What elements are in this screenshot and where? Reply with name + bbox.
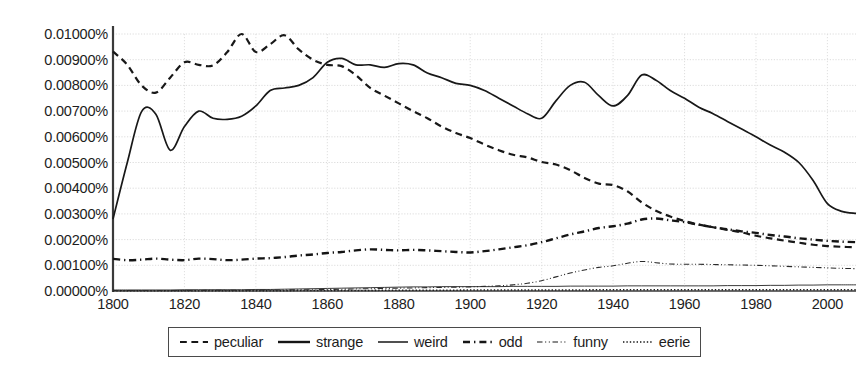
legend-line-swatch-strange xyxy=(277,337,311,347)
legend-item-peculiar[interactable]: peculiar xyxy=(172,334,270,350)
plot-area xyxy=(0,0,867,374)
series-line-strange xyxy=(113,58,856,219)
legend-line-swatch-eerie xyxy=(622,337,654,347)
series-line-odd xyxy=(113,219,856,261)
legend-line-swatch-odd xyxy=(462,337,494,347)
legend-label: weird xyxy=(414,334,448,350)
legend-line-swatch-weird xyxy=(377,337,409,347)
legend-item-odd[interactable]: odd xyxy=(455,334,530,350)
legend-label: eerie xyxy=(659,334,690,350)
legend-label: peculiar xyxy=(214,334,263,350)
legend-item-weird[interactable]: weird xyxy=(370,334,455,350)
ngram-frequency-chart: 0.01000%0.00900%0.00800%0.00700%0.00600%… xyxy=(0,0,867,374)
series-line-peculiar xyxy=(113,34,856,247)
legend-label: funny xyxy=(573,334,607,350)
series-line-funny xyxy=(113,261,856,290)
legend-line-swatch-peculiar xyxy=(179,337,209,347)
chart-legend: peculiarstrangeweirdoddfunnyeerie xyxy=(168,327,701,357)
legend-item-strange[interactable]: strange xyxy=(270,334,370,350)
legend-line-swatch-funny xyxy=(536,337,568,347)
legend-item-funny[interactable]: funny xyxy=(529,334,614,350)
legend-item-eerie[interactable]: eerie xyxy=(615,334,697,350)
gridlines xyxy=(113,34,856,291)
legend-label: strange xyxy=(316,334,363,350)
legend-label: odd xyxy=(499,334,523,350)
